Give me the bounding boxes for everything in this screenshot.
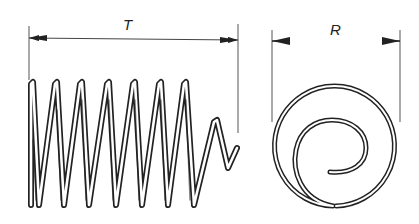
arrow-left-icon bbox=[29, 35, 47, 41]
dimension-label-t: T bbox=[123, 17, 132, 32]
spiral-spring bbox=[275, 86, 395, 206]
spring-diagram: T R bbox=[0, 0, 419, 224]
dimension-label-r: R bbox=[330, 22, 341, 37]
arrow-right-icon bbox=[220, 37, 238, 43]
helical-spring bbox=[31, 82, 237, 205]
dimension-line bbox=[29, 38, 238, 40]
